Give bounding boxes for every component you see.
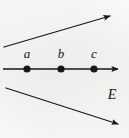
point-label-c: c (91, 47, 97, 60)
plane-label-E: E (108, 88, 117, 102)
point-marker-b (57, 65, 64, 72)
lower-plane-edge (6, 88, 118, 124)
geometry-figure: abc E (0, 0, 129, 138)
point-label-a: a (24, 47, 31, 60)
point-marker-a (23, 65, 30, 72)
point-marker-c (90, 65, 97, 72)
figure-canvas (0, 0, 129, 138)
point-label-b: b (58, 47, 65, 60)
upper-plane-edge (4, 16, 110, 47)
